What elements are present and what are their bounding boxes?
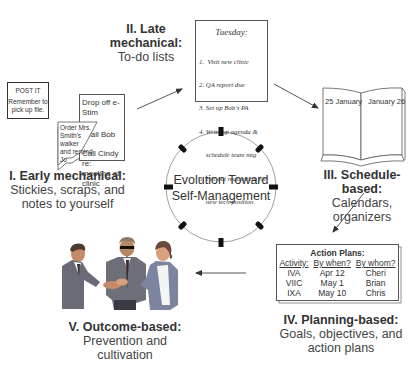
handshake-people-illustration [0, 0, 419, 366]
stage5-subtitle-line2: cultivation [55, 348, 195, 362]
stage5-subtitle-line1: Prevention and [55, 334, 195, 348]
stage5-title: V. Outcome-based: [55, 320, 195, 334]
stage5-caption: V. Outcome-based: Prevention and cultiva… [55, 320, 195, 362]
